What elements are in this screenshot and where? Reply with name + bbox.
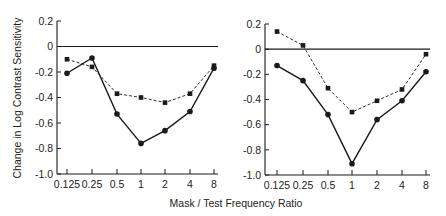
x-tick-label: 0.125	[264, 179, 290, 191]
data-point-square	[301, 43, 306, 48]
data-point-circle	[300, 78, 306, 84]
data-point-circle	[374, 117, 380, 123]
y-tick-label: 0	[255, 43, 261, 55]
data-point-circle	[162, 128, 168, 134]
data-point-circle	[64, 70, 70, 76]
data-point-square	[139, 95, 144, 100]
y-tick-label: -1.0	[35, 168, 53, 180]
x-tick-label: 0.5	[321, 179, 336, 191]
data-point-circle	[138, 141, 144, 147]
x-tick-label: 1	[138, 178, 144, 190]
data-point-circle	[349, 161, 355, 167]
data-point-circle	[274, 63, 280, 69]
y-tick-label: -0.6	[243, 118, 261, 130]
y-tick-label: -1.0	[243, 169, 261, 181]
y-axis-title: Change in Log Contrast Sensitivity	[11, 17, 23, 179]
right-panel: 0.20-0.2-0.4-0.6-0.8-1.00.1250.250.51248	[243, 18, 430, 191]
data-point-square	[400, 87, 405, 92]
left-panel: 0.20-0.2-0.4-0.6-0.8-1.00.1250.250.51248	[35, 15, 218, 190]
data-point-square	[424, 52, 429, 57]
y-tick-label: -0.6	[35, 117, 53, 129]
y-tick-label: -0.2	[35, 66, 53, 78]
x-tick-label: 8	[423, 179, 429, 191]
x-tick-label: 1	[349, 179, 355, 191]
x-tick-label: 4	[399, 179, 405, 191]
series-line-solid	[277, 66, 426, 164]
data-point-circle	[187, 109, 193, 115]
data-point-square	[350, 110, 355, 115]
data-point-square	[188, 91, 193, 96]
data-point-square	[326, 86, 331, 91]
x-tick-label: 0.25	[293, 179, 314, 191]
data-point-square	[212, 63, 217, 68]
x-tick-label: 0.5	[110, 178, 125, 190]
data-point-square	[163, 100, 168, 105]
y-tick-label: -0.8	[35, 142, 53, 154]
data-point-circle	[89, 55, 95, 61]
x-tick-label: 4	[187, 178, 193, 190]
series-line-solid	[67, 58, 214, 143]
data-point-square	[115, 91, 120, 96]
figure: 0.20-0.2-0.4-0.6-0.8-1.00.1250.250.51248…	[0, 0, 446, 216]
x-tick-label: 0.125	[54, 178, 80, 190]
y-tick-label: -0.4	[243, 93, 261, 105]
y-tick-label: 0.2	[38, 15, 53, 27]
data-point-circle	[325, 112, 331, 118]
y-tick-label: -0.2	[243, 68, 261, 80]
data-point-square	[375, 98, 380, 103]
x-tick-label: 2	[374, 179, 380, 191]
data-point-square	[65, 57, 70, 62]
data-point-circle	[423, 69, 429, 75]
y-tick-label: 0	[47, 40, 53, 52]
data-point-square	[90, 65, 95, 70]
data-point-circle	[399, 98, 405, 104]
y-tick-label: 0.2	[246, 18, 261, 30]
data-point-square	[275, 29, 280, 34]
y-tick-label: -0.4	[35, 91, 53, 103]
y-tick-label: -0.8	[243, 144, 261, 156]
x-axis-title: Mask / Test Frequency Ratio	[170, 197, 303, 209]
data-point-circle	[114, 111, 120, 117]
x-tick-label: 0.25	[82, 178, 103, 190]
x-tick-label: 8	[211, 178, 217, 190]
x-tick-label: 2	[162, 178, 168, 190]
